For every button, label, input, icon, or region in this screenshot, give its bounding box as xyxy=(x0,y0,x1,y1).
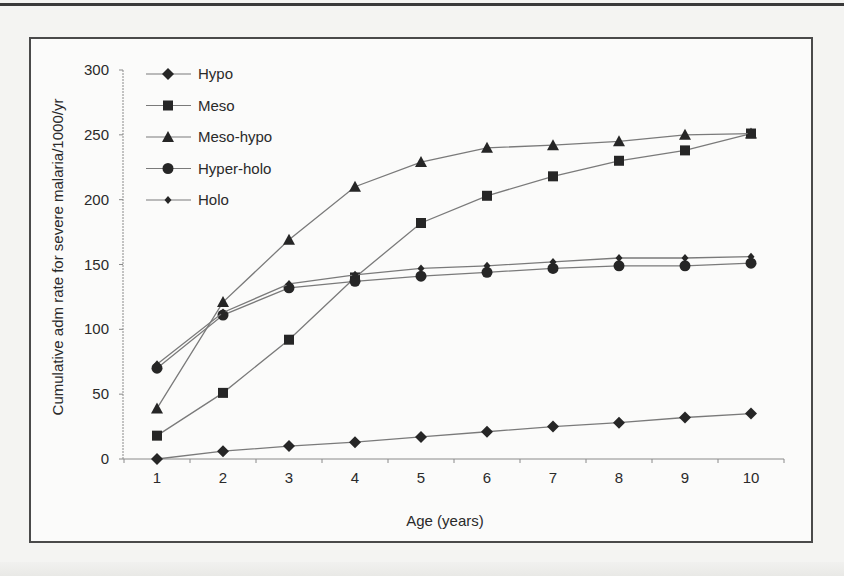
y-axis-title: Cumulative adm rate for severe malaria/1… xyxy=(49,99,66,416)
square-marker-icon xyxy=(482,191,492,201)
diamond-marker-icon xyxy=(151,453,163,465)
diamond-marker-icon xyxy=(415,431,427,443)
diamond-marker-icon xyxy=(349,436,361,448)
diamond-marker-icon xyxy=(217,445,229,457)
square-marker-icon xyxy=(284,335,294,345)
square-marker-icon xyxy=(548,171,558,181)
legend-item-meso: Meso xyxy=(146,97,235,114)
legend-label: Holo xyxy=(198,191,229,208)
legend-label: Meso xyxy=(198,97,235,114)
x-axis-title: Age (years) xyxy=(406,512,484,529)
x-tick-label: 2 xyxy=(219,469,227,486)
diamond-icon xyxy=(162,68,174,80)
square-marker-icon xyxy=(416,218,426,228)
small-diamond-marker-icon xyxy=(418,264,425,272)
diamond-marker-icon xyxy=(679,412,691,424)
x-tick-label: 3 xyxy=(285,469,293,486)
square-marker-icon xyxy=(152,431,162,441)
y-tick-label: 100 xyxy=(84,320,109,337)
series-hyper-holo xyxy=(152,258,757,374)
small-diamond-icon xyxy=(165,196,172,204)
x-tick-label: 10 xyxy=(743,469,760,486)
series-hypo xyxy=(151,408,757,465)
legend: HypoMesoMeso-hypoHyper-holoHolo xyxy=(146,65,272,208)
series-line xyxy=(157,134,751,436)
line-chart: 05010015020025030012345678910 HypoMesoMe… xyxy=(0,0,844,576)
x-tick-label: 5 xyxy=(417,469,425,486)
series-holo xyxy=(154,253,755,369)
legend-item-hyper-holo: Hyper-holo xyxy=(146,160,271,177)
legend-item-hypo: Hypo xyxy=(146,65,233,82)
x-tick-label: 4 xyxy=(351,469,359,486)
series-line xyxy=(157,414,751,459)
x-tick-label: 1 xyxy=(153,469,161,486)
diamond-marker-icon xyxy=(481,426,493,438)
x-tick-label: 9 xyxy=(681,469,689,486)
x-tick-label: 7 xyxy=(549,469,557,486)
triangle-marker-icon xyxy=(349,181,361,192)
small-diamond-marker-icon xyxy=(682,254,689,262)
axes: 05010015020025030012345678910 xyxy=(84,61,784,486)
y-tick-label: 300 xyxy=(84,61,109,78)
legend-label: Meso-hypo xyxy=(198,128,272,145)
x-tick-label: 6 xyxy=(483,469,491,486)
legend-label: Hypo xyxy=(198,65,233,82)
series-layer xyxy=(151,128,757,465)
square-icon xyxy=(163,101,173,111)
series-line xyxy=(157,257,751,365)
diamond-marker-icon xyxy=(745,408,757,420)
diamond-marker-icon xyxy=(547,421,559,433)
y-tick-label: 50 xyxy=(92,385,109,402)
square-marker-icon xyxy=(614,156,624,166)
circle-icon xyxy=(163,163,174,174)
series-line xyxy=(157,263,751,368)
triangle-marker-icon xyxy=(283,234,295,245)
legend-item-holo: Holo xyxy=(146,191,229,208)
y-tick-label: 0 xyxy=(101,450,109,467)
y-tick-label: 200 xyxy=(84,191,109,208)
y-tick-label: 250 xyxy=(84,126,109,143)
diamond-marker-icon xyxy=(283,440,295,452)
square-marker-icon xyxy=(218,388,228,398)
triangle-marker-icon xyxy=(151,402,163,413)
small-diamond-marker-icon xyxy=(616,254,623,262)
page-bottom-edge xyxy=(0,562,844,576)
y-tick-label: 150 xyxy=(84,256,109,273)
legend-item-meso-hypo: Meso-hypo xyxy=(146,128,272,145)
square-marker-icon xyxy=(680,145,690,155)
x-tick-label: 8 xyxy=(615,469,623,486)
legend-label: Hyper-holo xyxy=(198,160,271,177)
diamond-marker-icon xyxy=(613,417,625,429)
